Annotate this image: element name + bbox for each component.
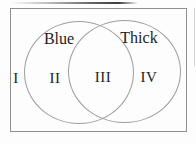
- region-label-i: I: [13, 71, 19, 86]
- region-label-ii: II: [50, 71, 61, 86]
- set-label-blue: Blue: [44, 31, 74, 47]
- set-label-thick: Thick: [120, 30, 157, 46]
- scan-artifact-right-line: [194, 8, 195, 66]
- region-label-iii: III: [95, 70, 112, 85]
- scan-artifact-top-line: [10, 2, 138, 4]
- region-label-iv: IV: [141, 70, 158, 85]
